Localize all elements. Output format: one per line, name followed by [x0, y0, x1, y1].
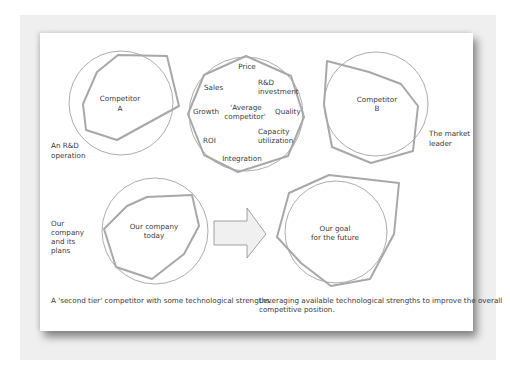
competitor-b-label-2: B [375, 104, 380, 113]
competitor-a-label-2: A [118, 104, 123, 113]
our-company-side-label-3: and its [51, 237, 76, 246]
our-goal-caption-2: competitive position. [259, 305, 335, 314]
axis-label-roi: ROI [203, 136, 216, 145]
our-company-label-2: today [144, 231, 165, 240]
competitor-a-profile: Competitor A An R&D operation [51, 51, 179, 160]
competitor-b-label: Competitor [357, 95, 397, 104]
competitive-profile-diagram: Competitor A An R&D operation Price R&D … [0, 0, 510, 370]
competitor-a-baseline-circle [69, 51, 173, 155]
competitor-a-side-label-2: operation [51, 151, 86, 160]
axis-label-quality: Quality [275, 107, 301, 116]
competitor-b-profile: Competitor B The market leader [324, 52, 470, 163]
average-competitor-profile: Price R&D investment Quality Capacity ut… [188, 56, 304, 172]
our-goal-label: Our goal [320, 224, 351, 233]
transition-arrow [214, 208, 266, 258]
competitor-b-side-label-2: leader [429, 139, 452, 148]
our-company-label: Our company [130, 222, 179, 231]
axis-label-sales: Sales [204, 83, 223, 92]
axis-label-integration: Integration [222, 154, 262, 163]
average-competitor-label: 'Average [230, 103, 262, 112]
average-competitor-label-2: competitor' [224, 112, 265, 121]
competitor-a-label: Competitor [100, 94, 140, 103]
axis-label-capacity-utilization: Capacity [258, 127, 290, 136]
our-company-side-label-4: plans [51, 246, 71, 255]
competitor-b-side-label: The market [428, 129, 470, 138]
axis-label-rd-investment: R&D [258, 78, 275, 87]
axis-label-capacity-utilization-2: utilization [258, 136, 293, 145]
our-goal-caption: Leveraging available technological stren… [259, 296, 502, 305]
axis-label-growth: Growth [193, 107, 219, 116]
competitor-a-side-label: An R&D [51, 141, 79, 150]
our-company-side-label-2: company [51, 228, 85, 237]
axis-label-rd-investment-2: investment [258, 87, 299, 96]
our-company-caption: A 'second tier' competitor with some tec… [51, 296, 272, 305]
arrow-right-icon [214, 208, 266, 258]
our-goal-profile: Our goal for the future Leveraging avail… [259, 175, 502, 314]
our-goal-label-2: for the future [311, 233, 360, 242]
our-company-side-label-1: Our [51, 219, 64, 228]
axis-label-price: Price [238, 62, 256, 71]
